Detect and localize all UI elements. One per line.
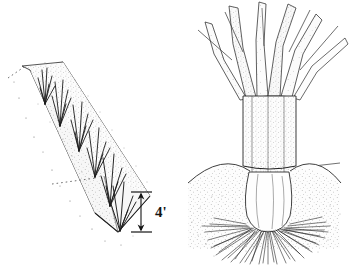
figure-root: 4' bbox=[0, 0, 351, 265]
plant-crown bbox=[245, 172, 291, 232]
illustration-canvas: 4' bbox=[0, 0, 351, 265]
trench-depth-label: 4' bbox=[155, 204, 167, 220]
